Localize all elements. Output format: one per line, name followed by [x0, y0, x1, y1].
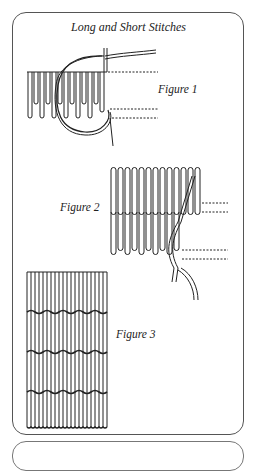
figure-3-label: Figure 3 [116, 328, 156, 340]
figure-1-label: Figure 1 [158, 83, 198, 95]
figure-2-stitches [111, 168, 228, 301]
figure-2-label: Figure 2 [60, 201, 100, 213]
figure-1-stitches [27, 48, 158, 146]
figure-3-stitches [27, 272, 107, 428]
